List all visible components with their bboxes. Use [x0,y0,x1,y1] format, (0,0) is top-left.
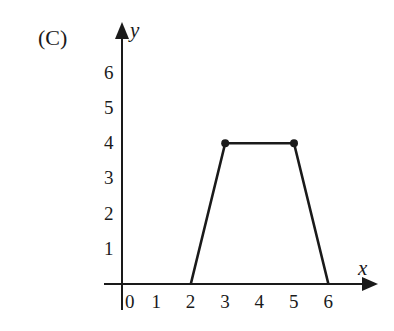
y-tick-label: 6 [104,63,114,82]
y-tick-label: 2 [104,204,114,223]
graph-point [221,139,229,147]
y-tick-label: 5 [104,98,114,117]
y-axis-arrow-icon [115,22,129,39]
graph-line [191,143,329,284]
x-tick-label: 6 [323,292,333,311]
x-tick-label: 1 [151,292,161,311]
x-tick-label: 5 [289,292,299,311]
y-tick-label: 3 [104,168,114,187]
y-tick-label: 4 [104,133,114,152]
plot-area [0,0,394,331]
graph-point [290,139,298,147]
x-tick-label: 0 [125,292,135,311]
y-tick-label: 1 [104,239,114,258]
y-axis-label: y [130,20,139,41]
x-tick-label: 2 [186,292,196,311]
x-tick-label: 4 [255,292,265,311]
x-tick-label: 3 [220,292,230,311]
x-axis-label: x [358,258,367,279]
